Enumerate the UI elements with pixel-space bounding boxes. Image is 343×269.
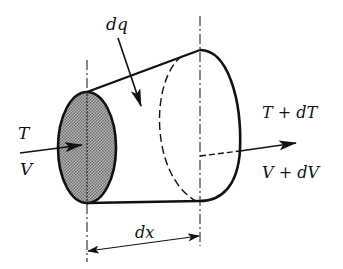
label-dq: dq (106, 14, 128, 34)
label-T-plus-dT: T + dT (262, 103, 318, 122)
label-V-plus-dV: V + dV (262, 163, 320, 182)
label-T: T (18, 123, 31, 143)
top-edge (87, 50, 200, 92)
right-load-arrow-icon (240, 143, 296, 151)
right-load-dashed (200, 151, 240, 156)
bottom-edge (87, 201, 200, 203)
hidden-arc (160, 56, 196, 201)
label-V: V (20, 159, 34, 179)
label-dx: dx (135, 223, 154, 242)
differential-element-diagram: dq T V T + dT V + dV dx (0, 0, 343, 269)
right-section-outline (200, 50, 240, 201)
